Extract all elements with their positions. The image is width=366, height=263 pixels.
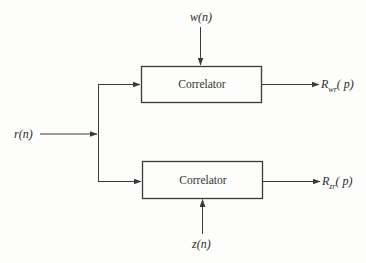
input-label-r: r(n)	[14, 127, 33, 141]
side-input-label-w: w(n)	[190, 10, 212, 24]
input-arg: (n)	[19, 127, 33, 141]
diagram-canvas	[0, 0, 366, 263]
correlator-top-label: Correlator	[142, 77, 262, 91]
z-arg: (n)	[197, 237, 211, 251]
w-arg: (n)	[198, 10, 212, 24]
correlator-bottom-label: Correlator	[143, 173, 263, 187]
output-bottom-sub: zr	[329, 182, 335, 191]
output-top-sub: wr	[328, 85, 336, 94]
w-var: w	[190, 10, 198, 24]
output-label-top: Rwr( p)	[321, 77, 354, 93]
output-label-bottom: Rzr( p)	[322, 174, 353, 190]
output-top-arg: ( p)	[337, 77, 354, 91]
side-input-label-z: z(n)	[192, 237, 211, 251]
output-bottom-arg: ( p)	[336, 174, 353, 188]
